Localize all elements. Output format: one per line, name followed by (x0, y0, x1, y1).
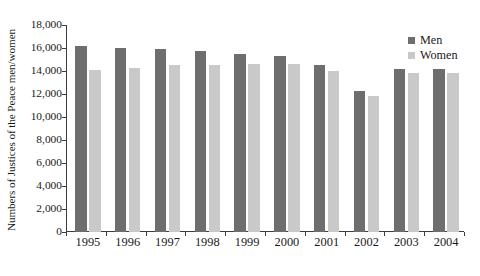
y-axis-tick-mark (62, 209, 66, 210)
bar-women-1995 (89, 70, 101, 232)
y-axis-tick-mark (62, 163, 66, 164)
legend-item-men[interactable]: Men (408, 33, 458, 47)
y-axis-tick-mark (62, 186, 66, 187)
bar-chart: Numbers of Justices of the Peace men/wom… (0, 0, 480, 276)
bar-women-2002 (368, 96, 380, 232)
bar-men-1998 (195, 51, 207, 232)
y-axis-tick-label: 12,000 (31, 88, 62, 99)
y-axis-tick-mark (62, 94, 66, 95)
bar-men-1997 (155, 49, 167, 232)
y-axis-tick-label: 18,000 (31, 19, 62, 30)
legend-swatch-icon (408, 37, 415, 44)
bar-women-1997 (169, 65, 181, 232)
y-axis-tick-label: 14,000 (31, 65, 62, 76)
bar-men-2000 (274, 56, 286, 232)
bar-men-1999 (234, 54, 246, 232)
plot-area (66, 25, 464, 232)
x-axis-tick-label-2003: 2003 (394, 236, 419, 248)
x-axis-tick-label-1999: 1999 (235, 236, 260, 248)
bar-men-2002 (354, 91, 366, 232)
y-axis-tick-mark (62, 25, 66, 26)
legend-label: Women (420, 49, 458, 61)
y-axis-title-text: Numbers of Justices of the Peace men/wom… (5, 29, 17, 231)
y-axis-tick-mark (62, 117, 66, 118)
y-axis-tick-mark (62, 48, 66, 49)
bars-layer (66, 25, 464, 232)
y-axis-tick-label: 2,000 (36, 203, 62, 214)
bar-men-2001 (314, 65, 326, 232)
x-axis-tick-label-2002: 2002 (354, 236, 379, 248)
bar-men-1996 (115, 48, 127, 232)
y-axis-tick-label: 10,000 (31, 111, 62, 122)
bar-women-2003 (408, 73, 420, 232)
y-axis-tick-label: 8,000 (36, 134, 62, 145)
bar-men-1995 (75, 46, 87, 232)
bar-women-1998 (209, 65, 221, 232)
x-axis-tick-label-2000: 2000 (275, 236, 300, 248)
bar-women-1999 (248, 64, 260, 232)
bar-women-2001 (328, 71, 340, 232)
y-axis-tick-mark (62, 140, 66, 141)
bar-men-2004 (433, 69, 445, 232)
y-axis-tick-labels: 02,0004,0006,0008,00010,00012,00014,0001… (18, 19, 62, 233)
x-axis-tick-label-1996: 1996 (115, 236, 140, 248)
x-axis-tick-label-1998: 1998 (195, 236, 220, 248)
legend-label: Men (420, 34, 442, 46)
y-axis-tick-mark (62, 71, 66, 72)
legend-item-women[interactable]: Women (408, 48, 458, 62)
x-axis-tick-label-1997: 1997 (155, 236, 180, 248)
x-axis-tick-labels: 1995199619971998199920002001200220032004 (66, 236, 464, 256)
x-axis-tick-label-2001: 2001 (314, 236, 339, 248)
chart-legend: MenWomen (408, 33, 458, 63)
x-axis-tick-label-1995: 1995 (76, 236, 101, 248)
y-axis-tick-label: 4,000 (36, 180, 62, 191)
x-axis-tick-label-2004: 2004 (434, 236, 459, 248)
bar-women-2004 (447, 73, 459, 232)
y-axis-tick-label: 16,000 (31, 42, 62, 53)
bar-women-1996 (129, 68, 141, 232)
bar-men-2003 (394, 69, 406, 232)
y-axis-tick-label: 6,000 (36, 157, 62, 168)
x-axis-tick-mark (464, 232, 465, 236)
legend-swatch-icon (408, 52, 415, 59)
bar-women-2000 (288, 64, 300, 232)
